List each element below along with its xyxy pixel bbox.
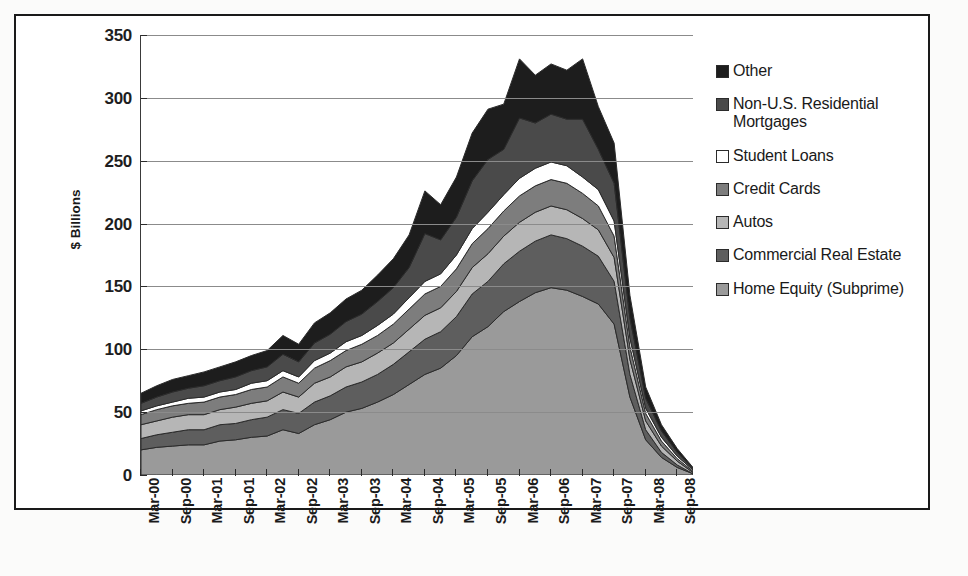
x-axis-tick-label: Sep-06 bbox=[556, 478, 572, 524]
x-axis-tick bbox=[519, 469, 520, 476]
y-axis-tick-label: 150 bbox=[86, 278, 132, 295]
x-axis-tick bbox=[140, 469, 141, 476]
x-axis-tick-label: Sep-05 bbox=[493, 478, 509, 524]
x-axis-tick bbox=[361, 469, 362, 476]
legend-item-label: Non-U.S. Residential Mortgages bbox=[733, 95, 921, 131]
legend-item[interactable]: Commercial Real Estate bbox=[716, 246, 921, 264]
legend-item-label: Other bbox=[733, 62, 772, 80]
x-axis-labels: Mar-00Sep-00Mar-01Sep-01Mar-02Sep-02Mar-… bbox=[140, 478, 692, 576]
legend-swatch-icon bbox=[716, 150, 729, 163]
x-axis-tick-label: Sep-01 bbox=[241, 478, 257, 524]
legend-item[interactable]: Non-U.S. Residential Mortgages bbox=[716, 95, 921, 131]
legend-swatch-icon bbox=[716, 183, 729, 196]
stacked-area-chart: 050100150200250300350 $ Billions Mar-00S… bbox=[16, 16, 932, 512]
legend-swatch-icon bbox=[716, 98, 729, 111]
plot-area bbox=[140, 35, 692, 475]
gridline bbox=[141, 286, 693, 287]
y-axis-tick-label: 350 bbox=[86, 27, 132, 44]
x-axis-tick-label: Mar-03 bbox=[335, 478, 351, 524]
y-axis-tick bbox=[141, 161, 147, 162]
y-axis-tick bbox=[141, 35, 147, 36]
x-axis-tick bbox=[203, 469, 204, 476]
x-axis-tick-label: Sep-02 bbox=[304, 478, 320, 524]
x-axis-tick-label: Mar-05 bbox=[461, 478, 477, 524]
chart-legend: OtherNon-U.S. Residential MortgagesStude… bbox=[716, 62, 921, 313]
legend-item[interactable]: Autos bbox=[716, 213, 921, 231]
legend-item-label: Commercial Real Estate bbox=[733, 246, 901, 264]
legend-item-label: Home Equity (Subprime) bbox=[733, 280, 904, 298]
x-axis-tick-label: Mar-00 bbox=[146, 478, 162, 524]
x-axis-tick bbox=[550, 469, 551, 476]
x-axis-tick bbox=[266, 469, 267, 476]
legend-swatch-icon bbox=[716, 249, 729, 262]
area-series-group bbox=[141, 35, 693, 475]
x-axis-tick bbox=[455, 469, 456, 476]
y-axis-tick-label: 250 bbox=[86, 153, 132, 170]
legend-swatch-icon bbox=[716, 283, 729, 296]
y-axis-tick-label: 100 bbox=[86, 341, 132, 358]
y-axis-title: $ Billions bbox=[68, 155, 83, 285]
gridline bbox=[141, 98, 693, 99]
x-axis-tick-label: Sep-07 bbox=[619, 478, 635, 524]
x-axis-tick bbox=[329, 469, 330, 476]
x-axis-tick bbox=[582, 469, 583, 476]
x-axis-tick bbox=[172, 469, 173, 476]
x-axis-tick-label: Mar-07 bbox=[588, 478, 604, 524]
gridline bbox=[141, 35, 693, 36]
y-axis-tick-label: 200 bbox=[86, 216, 132, 233]
gridline bbox=[141, 349, 693, 350]
y-axis-tick-label: 50 bbox=[86, 404, 132, 421]
x-axis-tick-label: Sep-00 bbox=[178, 478, 194, 524]
x-axis-tick bbox=[645, 469, 646, 476]
x-axis-tick-label: Mar-02 bbox=[272, 478, 288, 524]
x-axis-tick-label: Mar-04 bbox=[398, 478, 414, 524]
y-axis-tick bbox=[141, 224, 147, 225]
x-axis-tick-label: Sep-03 bbox=[367, 478, 383, 524]
legend-item-label: Credit Cards bbox=[733, 180, 820, 198]
y-axis-tick bbox=[141, 349, 147, 350]
legend-item[interactable]: Other bbox=[716, 62, 921, 80]
x-axis-tick bbox=[235, 469, 236, 476]
y-axis-tick bbox=[141, 475, 147, 476]
legend-item[interactable]: Student Loans bbox=[716, 147, 921, 165]
x-axis-tick bbox=[676, 469, 677, 476]
legend-item-label: Autos bbox=[733, 213, 773, 231]
y-axis-tick bbox=[141, 98, 147, 99]
legend-item-label: Student Loans bbox=[733, 147, 834, 165]
x-axis-tick bbox=[424, 469, 425, 476]
x-axis-tick-label: Mar-06 bbox=[525, 478, 541, 524]
scanned-page-background: 050100150200250300350 $ Billions Mar-00S… bbox=[0, 0, 968, 576]
gridline bbox=[141, 412, 693, 413]
x-axis-tick bbox=[613, 469, 614, 476]
x-axis-tick bbox=[298, 469, 299, 476]
legend-item[interactable]: Credit Cards bbox=[716, 180, 921, 198]
y-axis-tick-label: 300 bbox=[86, 90, 132, 107]
y-axis-tick bbox=[141, 412, 147, 413]
chart-frame: 050100150200250300350 $ Billions Mar-00S… bbox=[14, 14, 930, 510]
x-axis-tick-label: Mar-01 bbox=[209, 478, 225, 524]
gridline bbox=[141, 161, 693, 162]
y-axis-tick-label: 0 bbox=[86, 467, 132, 484]
x-axis-tick bbox=[392, 469, 393, 476]
x-axis-tick bbox=[487, 469, 488, 476]
x-axis-tick-label: Sep-08 bbox=[682, 478, 698, 524]
y-axis-tick bbox=[141, 286, 147, 287]
legend-item[interactable]: Home Equity (Subprime) bbox=[716, 280, 921, 298]
x-axis-tick-label: Sep-04 bbox=[430, 478, 446, 524]
gridline bbox=[141, 224, 693, 225]
legend-swatch-icon bbox=[716, 216, 729, 229]
x-axis-tick-label: Mar-08 bbox=[651, 478, 667, 524]
legend-swatch-icon bbox=[716, 65, 729, 78]
